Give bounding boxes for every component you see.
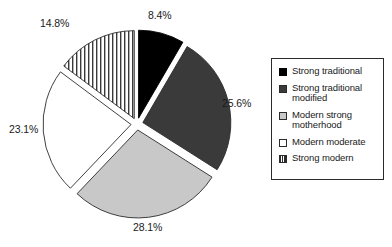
pie-label-strong-modern: 14.8%	[40, 17, 69, 29]
solid-white-swatch-icon	[279, 139, 287, 147]
pie-label-modern-moderate: 23.1%	[9, 123, 38, 135]
vertical-stripes-swatch-icon	[279, 155, 287, 163]
solid-black-swatch-icon	[279, 68, 287, 76]
pie-label-strong-traditional: 8.4%	[148, 9, 172, 21]
legend-label-strong-traditional-modified: Strong traditional modified	[292, 83, 379, 104]
legend-label-modern-strong-motherhood: Modern strong motherhood	[292, 110, 379, 131]
legend-label-strong-modern: Strong modern	[292, 153, 354, 164]
chart-legend: Strong traditional Strong traditional mo…	[271, 58, 384, 180]
legend-label-strong-traditional: Strong traditional	[292, 66, 362, 77]
legend-item-modern-strong-motherhood[interactable]: Modern strong motherhood	[279, 110, 379, 131]
pie-label-strong-traditional-modified: 25.6%	[222, 97, 251, 109]
legend-item-strong-traditional[interactable]: Strong traditional	[279, 66, 379, 77]
pie-chart-figure: 8.4% 25.6% 28.1% 23.1% 14.8% Strong trad…	[0, 0, 392, 247]
legend-item-modern-moderate[interactable]: Modern moderate	[279, 137, 379, 148]
legend-item-strong-traditional-modified[interactable]: Strong traditional modified	[279, 83, 379, 104]
solid-dark-gray-swatch-icon	[279, 85, 287, 93]
pie-label-modern-strong-motherhood: 28.1%	[133, 221, 162, 233]
solid-light-gray-swatch-icon	[279, 112, 287, 120]
legend-item-strong-modern[interactable]: Strong modern	[279, 153, 379, 164]
pie-chart-graphic	[0, 0, 270, 247]
legend-label-modern-moderate: Modern moderate	[292, 137, 365, 148]
